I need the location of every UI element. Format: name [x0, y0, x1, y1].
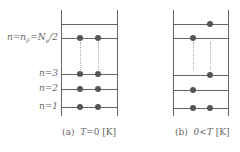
dotted-connector [193, 42, 194, 70]
electron-dot [207, 72, 213, 78]
level-n1 [173, 108, 229, 109]
electron-dot [190, 105, 196, 111]
panel-b-t-positive: (b) 0<T [K] [0, 0, 240, 152]
level-top [173, 24, 229, 25]
excited-electron-dot [207, 21, 213, 27]
caption-b: (b) 0<T [K] [175, 127, 229, 137]
level-n3 [173, 75, 229, 76]
electron-dot [190, 35, 196, 41]
level-n2 [173, 90, 229, 91]
electron-dot [207, 105, 213, 111]
electron-dot [190, 87, 196, 93]
box-left-wall [173, 10, 174, 116]
level-fermi [173, 38, 229, 39]
dotted-connector [210, 42, 211, 70]
box-right-wall [228, 10, 229, 116]
